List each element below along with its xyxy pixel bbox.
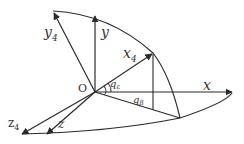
top-arc [53, 11, 180, 118]
origin-label: O [78, 82, 87, 95]
coordinate-diagram: O y4 y x4 x z4 z qε qβ [0, 0, 244, 144]
x-label: x [203, 77, 211, 93]
y4-label: y4 [43, 24, 58, 43]
z-axis [47, 92, 95, 134]
z-label: z [57, 117, 65, 131]
x4-label: x4 [123, 45, 137, 64]
z4-label: z4 [8, 116, 19, 132]
q-beta-arc [104, 86, 106, 95]
y4-axis [54, 13, 95, 92]
y-label: y [100, 24, 110, 40]
